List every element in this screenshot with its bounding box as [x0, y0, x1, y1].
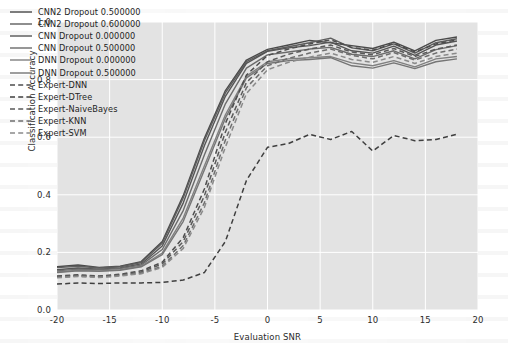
- x-tick-label: -15: [95, 315, 125, 325]
- legend-item[interactable]: Expert-DTree: [10, 91, 141, 103]
- legend-item[interactable]: Expert-KNN: [10, 115, 141, 127]
- legend-item-label: DNN Dropout 0.500000: [38, 68, 136, 78]
- legend-item-label: CNN2 Dropout 0.500000: [38, 7, 141, 17]
- legend-item-label: Expert-KNN: [38, 116, 86, 126]
- legend-item-label: CNN Dropout 0.500000: [38, 43, 135, 53]
- legend-line-swatch-icon: [10, 43, 32, 53]
- x-tick-label: 15: [410, 315, 440, 325]
- x-axis-label: Evaluation SNR: [57, 332, 478, 342]
- x-tick-label: -5: [200, 315, 230, 325]
- legend-item-label: DNN Dropout 0.000000: [38, 55, 136, 65]
- y-tick-label: 1.0: [25, 17, 51, 27]
- y-tick-label: 0.8: [25, 75, 51, 85]
- legend-item-label: CNN2 Dropout 0.600000: [38, 19, 141, 29]
- legend-item-label: CNN Dropout 0.000000: [38, 31, 135, 41]
- legend-item-label: Expert-NaiveBayes: [38, 104, 118, 114]
- x-tick-label: -10: [147, 315, 177, 325]
- legend-item[interactable]: Expert-NaiveBayes: [10, 103, 141, 115]
- y-tick-label: 0.4: [25, 190, 51, 200]
- x-tick-label: 5: [305, 315, 335, 325]
- legend-line-swatch-icon: [10, 7, 32, 17]
- legend-line-swatch-icon: [10, 31, 32, 41]
- legend-line-swatch-icon: [10, 92, 32, 102]
- x-tick-label: 10: [358, 315, 388, 325]
- legend-line-swatch-icon: [10, 55, 32, 65]
- x-tick-label: 0: [253, 315, 283, 325]
- x-tick-label: 20: [463, 315, 493, 325]
- y-tick-label: 0.2: [25, 247, 51, 257]
- y-tick-label: 0.0: [25, 305, 51, 315]
- legend-item[interactable]: CNN Dropout 0.000000: [10, 30, 141, 42]
- legend-item-label: Expert-DTree: [38, 92, 92, 102]
- series-line-expert-dtree: [57, 131, 457, 284]
- legend-line-swatch-icon: [10, 104, 32, 114]
- y-tick-label: 0.6: [25, 132, 51, 142]
- legend-line-swatch-icon: [10, 116, 32, 126]
- chart-figure: Classification Accuracy Evaluation SNR C…: [0, 0, 508, 360]
- legend-item[interactable]: CNN Dropout 0.500000: [10, 42, 141, 54]
- legend-item[interactable]: DNN Dropout 0.000000: [10, 54, 141, 66]
- x-tick-label: -20: [42, 315, 72, 325]
